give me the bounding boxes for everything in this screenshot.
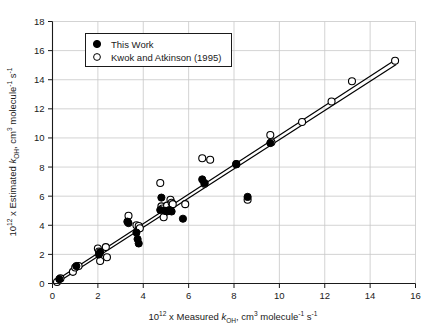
scatter-plot: 0246810121416 024681012141618 1012 x Mea… — [0, 0, 437, 332]
data-point-open-circle — [102, 244, 109, 251]
y-tick-label: 8 — [39, 162, 44, 173]
legend-marker-filled-circle-icon — [93, 40, 100, 47]
svg-text:1012 x Estimated kOH, cm3 mole: 1012 x Estimated kOH, cm3 molecule-1 s-1 — [6, 67, 19, 236]
x-tick-label: 8 — [231, 290, 236, 301]
data-point-filled-circle — [56, 276, 63, 283]
x-tick-label: 16 — [410, 290, 421, 301]
x-tick-label: 0 — [50, 290, 55, 301]
data-point-open-circle — [348, 78, 355, 85]
legend-label-this-work: This Work — [111, 39, 154, 50]
data-point-open-circle — [97, 257, 104, 264]
series-this-work-points — [56, 139, 274, 282]
y-tick-label: 4 — [39, 220, 44, 231]
data-point-filled-circle — [73, 262, 80, 269]
data-point-filled-circle — [135, 240, 142, 247]
data-point-open-circle — [207, 156, 214, 163]
data-point-open-circle — [182, 201, 189, 208]
x-tick-label: 12 — [319, 290, 330, 301]
x-axis-ticks: 0246810121416 — [50, 284, 421, 302]
data-point-open-circle — [328, 98, 335, 105]
data-point-filled-circle — [179, 215, 186, 222]
y-axis-ticks: 024681012141618 — [34, 16, 53, 289]
data-point-open-circle — [157, 180, 164, 187]
data-point-filled-circle — [244, 193, 251, 200]
y-tick-label: 2 — [39, 249, 44, 260]
data-point-open-circle — [392, 57, 399, 64]
y-tick-label: 18 — [34, 16, 45, 27]
legend: This Work Kwok and Atkinson (1995) — [86, 34, 232, 67]
y-axis-title: 1012 x Estimated kOH, cm3 molecule-1 s-1 — [6, 67, 19, 236]
data-point-filled-circle — [233, 161, 240, 168]
y-tick-label: 16 — [34, 45, 45, 56]
legend-label-kwok-atkinson: Kwok and Atkinson (1995) — [111, 52, 221, 63]
x-tick-label: 4 — [141, 290, 146, 301]
x-axis-title: 1012 x Measured kOH, cm3 molecule-1 s-1 — [149, 310, 318, 323]
y-tick-label: 14 — [34, 74, 45, 85]
y-tick-label: 12 — [34, 103, 45, 114]
data-point-filled-circle — [97, 249, 104, 256]
data-point-open-circle — [267, 132, 274, 139]
x-tick-label: 6 — [186, 290, 191, 301]
data-point-filled-circle — [158, 194, 165, 201]
data-point-filled-circle — [133, 229, 140, 236]
chart-figure: 0246810121416 024681012141618 1012 x Mea… — [0, 0, 437, 332]
legend-marker-open-circle-icon — [94, 54, 101, 61]
data-point-open-circle — [103, 254, 110, 261]
data-point-open-circle — [199, 155, 206, 162]
svg-text:1012 x Measured kOH, cm3 molec: 1012 x Measured kOH, cm3 molecule-1 s-1 — [149, 310, 318, 323]
data-point-filled-circle — [201, 179, 208, 186]
data-point-filled-circle — [125, 219, 132, 226]
x-tick-label: 14 — [365, 290, 376, 301]
y-tick-label: 0 — [39, 278, 44, 289]
y-tick-label: 6 — [39, 191, 44, 202]
data-point-filled-circle — [168, 208, 175, 215]
x-tick-label: 2 — [95, 290, 100, 301]
data-point-open-circle — [299, 118, 306, 125]
y-tick-label: 10 — [34, 132, 45, 143]
x-tick-label: 10 — [274, 290, 285, 301]
data-point-filled-circle — [267, 139, 274, 146]
